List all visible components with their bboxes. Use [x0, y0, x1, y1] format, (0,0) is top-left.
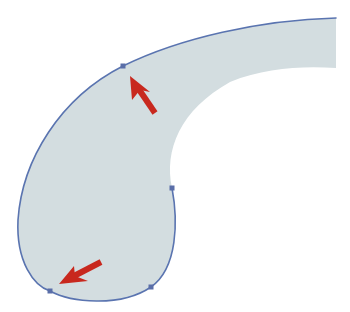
anchor-point-inner[interactable]	[170, 186, 175, 191]
anchor-point-top[interactable]	[121, 64, 126, 69]
path-illustration	[0, 0, 350, 312]
comma-shape-fill	[18, 18, 336, 301]
anchor-point-bottom-right[interactable]	[149, 285, 154, 290]
anchor-point-bottom-left[interactable]	[48, 289, 53, 294]
